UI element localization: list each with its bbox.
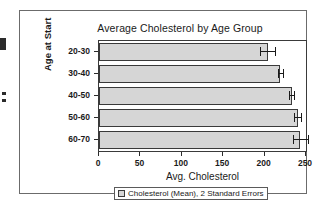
y-tick-label-30-40: 30-40 [50,68,90,78]
scan-artifact-mark [0,38,6,50]
x-tick-label-100: 100 [166,158,196,168]
y-tick-label-50-60: 50-60 [50,112,90,122]
x-axis-title: Avg. Cholesterol [98,171,307,182]
bar-30-40 [99,65,280,83]
bar-row [99,65,306,83]
error-bar-cap [301,113,302,122]
chart-frame: Average Cholesterol by Age Group Age at … [19,10,307,194]
bar-40-50 [99,87,292,105]
error-bar-cap [294,113,295,122]
error-bar-cap [294,91,295,100]
bar-row [99,131,306,149]
error-bar-cap [289,91,290,100]
y-tick-mark [94,51,98,52]
bar-row [99,43,306,61]
chart-title: Average Cholesterol by Age Group [20,22,306,34]
x-tick-label-150: 150 [207,158,237,168]
chart-legend: Cholesterol (Mean), 2 Standard Errors [114,187,268,200]
bar-row [99,87,306,105]
y-tick-label-60-70: 60-70 [50,134,90,144]
y-tick-label-40-50: 40-50 [50,90,90,100]
y-tick-mark [94,117,98,118]
error-bar-60-70 [293,139,308,140]
x-tick-mark [98,152,99,156]
y-tick-mark [94,139,98,140]
error-bar-cap [308,135,309,144]
x-tick-mark [264,152,265,156]
bar-60-70 [99,131,300,149]
x-tick-label-200: 200 [249,158,279,168]
y-tick-mark [94,73,98,74]
error-bar-cap [283,69,284,78]
bar-50-60 [99,109,298,127]
legend-swatch-icon [118,190,125,197]
bar-20-30 [99,43,268,61]
x-tick-mark [305,152,306,156]
scan-artifact-mark [2,99,6,102]
bar-row [99,109,306,127]
x-tick-label-50: 50 [124,158,154,168]
x-tick-label-0: 0 [83,158,113,168]
x-tick-mark [181,152,182,156]
y-tick-label-20-30: 20-30 [50,46,90,56]
error-bar-cap [293,135,294,144]
error-bar-20-30 [260,51,275,52]
x-tick-label-250: 250 [290,158,316,168]
scan-artifact-mark [2,92,6,95]
error-bar-cap [278,69,279,78]
y-tick-mark [94,95,98,96]
legend-label: Cholesterol (Mean), 2 Standard Errors [128,189,264,198]
error-bar-cap [275,47,276,56]
x-tick-mark [222,152,223,156]
plot-area [98,40,307,152]
x-tick-mark [139,152,140,156]
error-bar-cap [260,47,261,56]
